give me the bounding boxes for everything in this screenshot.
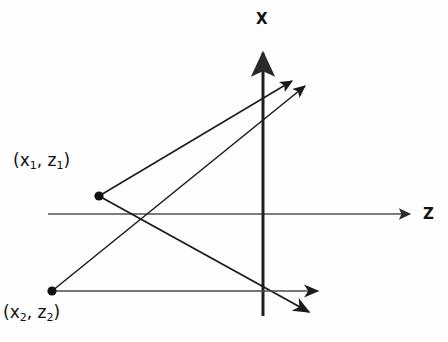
point-1-label-mid: , z: [37, 150, 57, 170]
ray-p2-upper: [52, 86, 305, 291]
point-2-label-sub1: 2: [20, 311, 27, 324]
point-2-dot: [47, 286, 56, 295]
point-2-label-open: (x: [3, 302, 20, 322]
point-1-label-close: ): [63, 150, 70, 170]
point-1-label: (x1, z1): [13, 150, 70, 172]
x-axis-label: X: [256, 10, 268, 28]
point-2-label-close: ): [53, 302, 60, 322]
ray-diagram-figure: X Z (x1, z1) (x2, z2): [0, 0, 448, 342]
point-1-label-sub1: 1: [30, 159, 37, 172]
point-1-dot: [94, 191, 103, 200]
point-1-label-open: (x: [13, 150, 30, 170]
z-axis-label: Z: [423, 205, 434, 223]
point-2-label-mid: , z: [27, 302, 47, 322]
point-2-label: (x2, z2): [3, 302, 60, 324]
